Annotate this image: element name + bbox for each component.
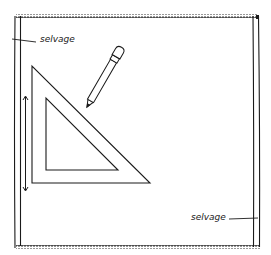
- set-square-inner: [46, 98, 118, 170]
- fabric-top-raw-edge: [16, 14, 258, 18]
- selvage-label-bottom: selvage: [191, 213, 226, 222]
- left-selvage-edge: [15, 16, 21, 248]
- set-square-triangle: [32, 66, 150, 183]
- set-square-outer: [32, 66, 150, 183]
- double-arrow-icon: [23, 96, 28, 191]
- pencil-icon: [83, 45, 125, 109]
- right-selvage-edge: [253, 15, 260, 247]
- fabric-bottom-raw-edge: [16, 245, 260, 249]
- selvage-label-top: selvage: [40, 35, 75, 44]
- selvage-top-leader-line: [12, 39, 36, 42]
